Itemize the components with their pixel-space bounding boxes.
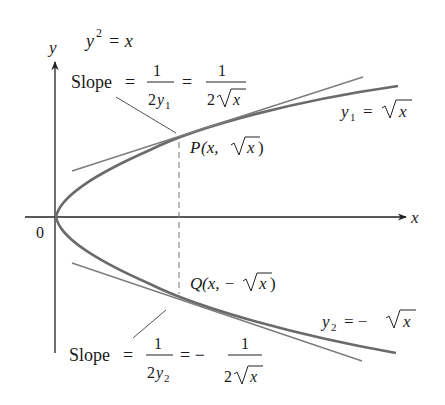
parabola-diagram: y x 0 y 2 = x Slope = 1 2 y 1 = 1 2 x y … [0, 0, 445, 405]
svg-text:2: 2 [96, 26, 102, 40]
curve-label-lower: y 2 = − x [320, 310, 416, 333]
svg-text:= −: = − [180, 345, 205, 365]
svg-text:Slope: Slope [69, 345, 110, 365]
svg-text:x: x [232, 91, 240, 108]
sqrt-icon [382, 100, 412, 118]
svg-text:= x: = x [108, 31, 133, 51]
leader-line-lower [133, 310, 166, 338]
curve-label-upper: y 1 = x [339, 100, 412, 123]
svg-text:1: 1 [241, 335, 249, 352]
svg-text:1: 1 [154, 335, 162, 352]
svg-text:P: P [189, 138, 200, 157]
sqrt-icon [386, 310, 416, 328]
svg-text:=: = [182, 72, 192, 92]
svg-text:x: x [246, 138, 255, 157]
svg-text:): ) [270, 274, 276, 293]
svg-text:(x, −: (x, − [202, 274, 235, 293]
svg-text:2: 2 [331, 321, 337, 333]
svg-text:x: x [249, 368, 257, 385]
x-axis-label: x [410, 208, 419, 227]
svg-text:y: y [155, 91, 165, 109]
svg-text:y: y [320, 312, 330, 331]
y-axis-label: y [47, 38, 57, 57]
sqrt-icon [243, 273, 272, 291]
svg-text:1: 1 [350, 111, 356, 123]
svg-text:1: 1 [153, 62, 161, 79]
svg-text:= −: = − [344, 312, 367, 331]
svg-text:x: x [398, 102, 407, 121]
svg-text:=: = [123, 345, 133, 365]
svg-text:): ) [258, 138, 264, 157]
slope-label-lower: Slope = 1 2 y 2 = − 1 2 x [69, 335, 263, 385]
svg-text:y: y [154, 364, 164, 382]
svg-text:1: 1 [165, 99, 171, 111]
svg-text:2: 2 [224, 368, 232, 385]
point-label-p: P (x, x ) [189, 137, 264, 157]
origin-label: 0 [36, 224, 44, 241]
svg-text:(x,: (x, [201, 138, 218, 157]
sqrt-icon [234, 366, 263, 384]
svg-text:x: x [402, 312, 411, 331]
svg-text:=: = [125, 72, 135, 92]
slope-label-upper: Slope = 1 2 y 1 = 1 2 x [71, 62, 246, 111]
sqrt-icon [231, 137, 260, 155]
svg-text:2: 2 [147, 364, 155, 381]
svg-text:Q: Q [190, 274, 202, 293]
point-label-q: Q (x, − x ) [190, 273, 276, 293]
svg-text:1: 1 [218, 62, 226, 79]
equation-label: y 2 = x [84, 26, 133, 51]
svg-text:y: y [339, 102, 349, 121]
svg-text:2: 2 [148, 91, 156, 108]
svg-text:y: y [84, 31, 94, 51]
svg-text:2: 2 [207, 91, 215, 108]
svg-text:=: = [363, 102, 373, 121]
svg-text:x: x [258, 274, 267, 293]
svg-text:Slope: Slope [71, 72, 112, 92]
sqrt-icon [217, 89, 246, 107]
svg-text:2: 2 [164, 372, 170, 384]
